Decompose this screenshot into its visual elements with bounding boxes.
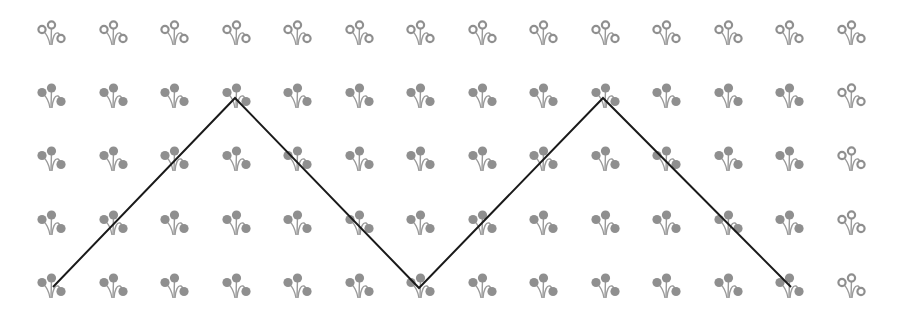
flower-filled-icon	[221, 146, 251, 172]
flower-filled-icon	[528, 83, 558, 109]
flower-filled-icon	[159, 146, 189, 172]
flower-outline-icon	[98, 20, 128, 46]
flower-outline-icon	[713, 20, 743, 46]
flower-outline-icon	[836, 20, 866, 46]
flower-filled-icon	[221, 83, 251, 109]
flower-outline-icon	[159, 20, 189, 46]
flower-filled-icon	[713, 83, 743, 109]
flower-filled-icon	[774, 146, 804, 172]
flower-outline-icon	[36, 20, 66, 46]
flower-filled-icon	[344, 210, 374, 236]
flower-filled-icon	[651, 273, 681, 299]
flower-filled-icon	[98, 83, 128, 109]
flower-outline-icon	[836, 146, 866, 172]
flower-outline-icon	[836, 210, 866, 236]
flower-filled-icon	[774, 273, 804, 299]
flower-filled-icon	[159, 273, 189, 299]
flower-filled-icon	[467, 273, 497, 299]
flower-outline-icon	[836, 273, 866, 299]
flower-outline-icon	[344, 20, 374, 46]
flower-filled-icon	[36, 146, 66, 172]
flower-filled-icon	[651, 146, 681, 172]
flower-filled-icon	[282, 146, 312, 172]
flower-outline-icon	[836, 83, 866, 109]
flower-filled-icon	[651, 210, 681, 236]
flower-filled-icon	[159, 210, 189, 236]
flower-outline-icon	[528, 20, 558, 46]
flower-filled-icon	[405, 146, 435, 172]
flower-filled-icon	[405, 83, 435, 109]
flower-filled-icon	[590, 146, 620, 172]
flower-filled-icon	[282, 273, 312, 299]
flower-filled-icon	[590, 210, 620, 236]
flower-filled-icon	[713, 146, 743, 172]
flower-filled-icon	[405, 273, 435, 299]
flower-filled-icon	[774, 210, 804, 236]
flower-filled-icon	[98, 146, 128, 172]
flower-filled-icon	[467, 146, 497, 172]
flower-outline-icon	[467, 20, 497, 46]
flower-filled-icon	[774, 83, 804, 109]
flower-filled-icon	[713, 273, 743, 299]
flower-filled-icon	[282, 210, 312, 236]
flower-filled-icon	[159, 83, 189, 109]
flower-outline-icon	[282, 20, 312, 46]
flower-filled-icon	[528, 210, 558, 236]
flower-outline-icon	[590, 20, 620, 46]
flower-outline-icon	[221, 20, 251, 46]
flower-filled-icon	[467, 83, 497, 109]
flower-filled-icon	[467, 210, 497, 236]
flower-filled-icon	[36, 273, 66, 299]
flower-filled-icon	[344, 273, 374, 299]
flower-filled-icon	[98, 210, 128, 236]
flower-filled-icon	[405, 210, 435, 236]
flower-filled-icon	[528, 146, 558, 172]
flower-filled-icon	[344, 83, 374, 109]
pictogram-chart	[0, 0, 902, 318]
flower-filled-icon	[221, 273, 251, 299]
flower-filled-icon	[36, 83, 66, 109]
flower-filled-icon	[651, 83, 681, 109]
flower-filled-icon	[713, 210, 743, 236]
flower-outline-icon	[651, 20, 681, 46]
flower-filled-icon	[590, 83, 620, 109]
flower-filled-icon	[36, 210, 66, 236]
flower-filled-icon	[590, 273, 620, 299]
flower-filled-icon	[344, 146, 374, 172]
flower-filled-icon	[528, 273, 558, 299]
flower-filled-icon	[221, 210, 251, 236]
flower-filled-icon	[98, 273, 128, 299]
flower-outline-icon	[774, 20, 804, 46]
flower-outline-icon	[405, 20, 435, 46]
flower-filled-icon	[282, 83, 312, 109]
